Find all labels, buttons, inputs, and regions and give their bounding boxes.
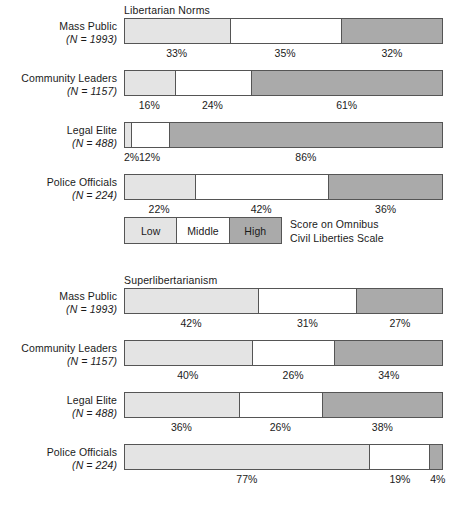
bar-segment-value-high: 36% xyxy=(328,201,443,217)
stacked-bar xyxy=(124,288,443,314)
bar-row-sample-size: (N = 224) xyxy=(0,459,117,472)
bar-row-label: Police Officials(N = 224) xyxy=(0,446,117,472)
bar-segment-value-high: 34% xyxy=(335,367,443,383)
bar-segment-high xyxy=(322,393,442,417)
bar-segment-middle xyxy=(175,71,250,95)
bar-row: Mass Public(N = 1993)42%31%27% xyxy=(0,288,459,340)
bar-value-labels: 33%35%32% xyxy=(124,45,443,61)
bar-segment-value-high: 86% xyxy=(169,149,443,165)
legend-caption: Score on Omnibus Civil Liberties Scale xyxy=(290,217,384,245)
bar-segment-value-middle: 42% xyxy=(194,201,328,217)
bar-row-sample-size: (N = 488) xyxy=(0,407,117,420)
bar-value-labels: 40%26%34% xyxy=(124,367,443,383)
bar-row-group-name: Mass Public xyxy=(59,20,117,32)
chart-legend: Low Middle High Score on Omnibus Civil L… xyxy=(124,217,384,245)
bar-row-group-name: Police Officials xyxy=(47,446,117,458)
legend-caption-line-1: Score on Omnibus xyxy=(290,218,384,232)
bar-segment-low xyxy=(125,71,175,95)
bar-segment-value-high: 27% xyxy=(357,315,443,331)
bar-row-label: Mass Public(N = 1993) xyxy=(0,290,117,316)
bar-value-labels: 16%24%61% xyxy=(124,97,443,113)
bar-row-label: Legal Elite(N = 488) xyxy=(0,394,117,420)
bar-row-label: Community Leaders(N = 1157) xyxy=(0,342,117,368)
bar-row-group-name: Community Leaders xyxy=(21,342,117,354)
bar-segment-value-high: 4% xyxy=(430,471,443,487)
bar-row-label: Police Officials(N = 224) xyxy=(0,176,117,202)
bar-row: Community Leaders(N = 1157)16%24%61% xyxy=(0,70,459,122)
bar-segment-middle xyxy=(369,445,429,469)
bar-row-label: Legal Elite(N = 488) xyxy=(0,124,117,150)
bar-row-sample-size: (N = 1993) xyxy=(0,303,117,316)
bar-rows: Mass Public(N = 1993)42%31%27%Community … xyxy=(0,288,459,496)
bar-segment-low xyxy=(125,19,230,43)
bar-row-group-name: Legal Elite xyxy=(67,394,117,406)
chart-title: Libertarian Norms xyxy=(124,4,210,16)
legend-item-low: Low xyxy=(125,218,176,243)
bar-segment-high xyxy=(429,445,442,469)
bar-segment-low xyxy=(125,393,239,417)
bar-segment-low xyxy=(125,289,258,313)
bar-segment-middle xyxy=(195,175,328,199)
bar-segment-value-middle: 12% xyxy=(130,149,168,165)
bar-segment-value-high: 32% xyxy=(341,45,443,61)
bar-value-labels: 36%26%38% xyxy=(124,419,443,435)
bar-row-sample-size: (N = 1157) xyxy=(0,355,117,368)
bar-segment-value-middle: 35% xyxy=(229,45,341,61)
bar-segment-high xyxy=(251,71,442,95)
legend-item-high: High xyxy=(229,218,281,243)
bar-value-labels: 22%42%36% xyxy=(124,201,443,217)
bar-row: Community Leaders(N = 1157)40%26%34% xyxy=(0,340,459,392)
bar-segment-high xyxy=(356,289,442,313)
bar-segment-middle xyxy=(230,19,341,43)
bar-row-group-name: Police Officials xyxy=(47,176,117,188)
bar-segment-value-middle: 31% xyxy=(258,315,357,331)
bar-segment-low xyxy=(125,445,369,469)
bar-segment-value-low: 16% xyxy=(124,97,175,113)
stacked-bar xyxy=(124,340,443,366)
bar-row: Police Officials(N = 224)77%19%4% xyxy=(0,444,459,496)
bar-row: Legal Elite(N = 488)36%26%38% xyxy=(0,392,459,444)
bar-segment-value-low: 40% xyxy=(124,367,252,383)
bar-segment-value-low: 42% xyxy=(124,315,258,331)
bar-row-label: Mass Public(N = 1993) xyxy=(0,20,117,46)
bar-segment-middle xyxy=(258,289,356,313)
bar-segment-value-low: 22% xyxy=(124,201,194,217)
bar-row: Mass Public(N = 1993)33%35%32% xyxy=(0,18,459,70)
bar-segment-high xyxy=(341,19,442,43)
bar-segment-value-low: 36% xyxy=(124,419,239,435)
bar-value-labels: 42%31%27% xyxy=(124,315,443,331)
bar-segment-value-high: 38% xyxy=(322,419,443,435)
bar-segment-value-high: 61% xyxy=(250,97,443,113)
bar-segment-high xyxy=(328,175,442,199)
bar-segment-value-low: 33% xyxy=(124,45,229,61)
bar-row-group-name: Community Leaders xyxy=(21,72,117,84)
bar-row-sample-size: (N = 224) xyxy=(0,189,117,202)
stacked-bar xyxy=(124,174,443,200)
bar-value-labels: 77%19%4% xyxy=(124,471,443,487)
bar-segment-middle xyxy=(252,341,334,365)
bar-segment-low xyxy=(125,341,252,365)
bar-segment-low xyxy=(125,175,195,199)
bar-segment-high xyxy=(334,341,442,365)
stacked-bar xyxy=(124,122,443,148)
bar-value-labels: 2%12%86% xyxy=(124,149,443,165)
bar-segment-value-middle: 24% xyxy=(175,97,251,113)
bar-segment-value-middle: 19% xyxy=(370,471,431,487)
legend-item-middle: Middle xyxy=(176,218,228,243)
stacked-bar xyxy=(124,392,443,418)
chart-title: Superlibertarianism xyxy=(124,274,217,286)
bar-segment-value-middle: 26% xyxy=(239,419,322,435)
bar-segment-middle xyxy=(131,123,169,147)
bar-row-sample-size: (N = 1157) xyxy=(0,85,117,98)
stacked-bar xyxy=(124,70,443,96)
bar-segment-value-middle: 26% xyxy=(252,367,335,383)
bar-row: Legal Elite(N = 488)2%12%86% xyxy=(0,122,459,174)
bar-row-group-name: Legal Elite xyxy=(67,124,117,136)
bar-segment-value-low: 77% xyxy=(124,471,370,487)
legend-caption-line-2: Civil Liberties Scale xyxy=(290,232,384,246)
stacked-bar xyxy=(124,18,443,44)
bar-row-group-name: Mass Public xyxy=(59,290,117,302)
bar-row-label: Community Leaders(N = 1157) xyxy=(0,72,117,98)
stacked-bar xyxy=(124,444,443,470)
bar-segment-middle xyxy=(239,393,321,417)
